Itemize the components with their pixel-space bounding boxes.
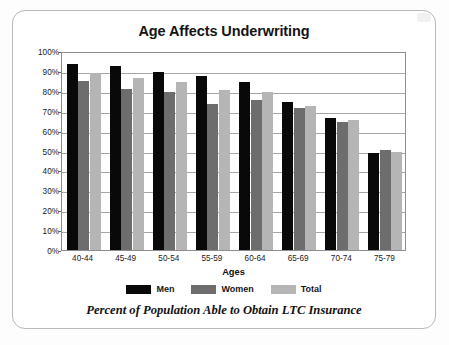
legend-label-women: Women	[221, 284, 253, 294]
y-axis-tick-label: 80%	[15, 87, 59, 96]
y-axis-tick-label: 40%	[15, 167, 59, 176]
y-axis-tick-label: 10%	[15, 227, 59, 236]
x-axis-tick-label: 45-49	[115, 254, 136, 263]
x-axis-tick-label: 75-79	[374, 254, 395, 263]
bar-group	[62, 53, 405, 250]
legend-item-women: Women	[191, 284, 253, 294]
chart-title: Age Affects Underwriting	[13, 23, 435, 39]
legend-label-men: Men	[156, 284, 174, 294]
chart-legend: MenWomenTotal	[13, 284, 435, 294]
bar-women-75-79	[380, 150, 391, 250]
legend-item-total: Total	[271, 284, 322, 294]
y-axis: 0%10%20%30%40%50%60%70%80%90%100%	[13, 52, 59, 251]
bar-series-layer	[62, 53, 405, 250]
bar-total-75-79	[391, 152, 402, 251]
x-axis-title: Ages	[61, 267, 406, 277]
scan-artifact	[417, 13, 431, 22]
y-axis-tick-mark	[58, 251, 61, 252]
chart-caption: Percent of Population Able to Obtain LTC…	[13, 303, 435, 318]
y-axis-tick-label: 20%	[15, 207, 59, 216]
y-axis-tick-label: 90%	[15, 67, 59, 76]
x-axis-tick-label: 70-74	[331, 254, 352, 263]
legend-swatch-total	[271, 285, 296, 294]
y-axis-tick-label: 70%	[15, 107, 59, 116]
x-axis-tick-label: 65-69	[288, 254, 309, 263]
x-axis-tick-label: 40-44	[72, 254, 93, 263]
chart-figure-frame: Age Affects Underwriting 0%10%20%30%40%5…	[12, 10, 436, 329]
y-axis-tick-label: 50%	[15, 147, 59, 156]
x-axis-tick-label: 60-64	[245, 254, 266, 263]
y-axis-tick-label: 30%	[15, 187, 59, 196]
x-axis-tick-labels: 40-4445-4950-5455-5960-6465-6970-7475-79	[61, 254, 406, 268]
y-axis-tick-label: 60%	[15, 127, 59, 136]
legend-label-total: Total	[301, 284, 322, 294]
plot-area	[61, 52, 406, 251]
bar-men-75-79	[368, 153, 379, 251]
y-axis-tick-label: 0%	[15, 247, 59, 256]
x-axis-tick-label: 50-54	[158, 254, 179, 263]
legend-item-men: Men	[126, 284, 174, 294]
legend-swatch-men	[126, 285, 151, 294]
y-axis-tick-label: 100%	[15, 48, 59, 57]
legend-swatch-women	[191, 285, 216, 294]
x-axis-tick-label: 55-59	[201, 254, 222, 263]
